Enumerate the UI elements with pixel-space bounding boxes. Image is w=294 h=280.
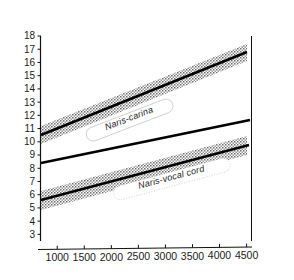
x-tick-label: 1500 [73, 251, 97, 263]
y-tick-label: 17 [24, 44, 36, 55]
y-tick-label: 6 [29, 189, 35, 200]
x-tick-label: 2500 [127, 250, 151, 262]
y-tick-label: 11 [25, 123, 36, 134]
x-tick-label: 4000 [208, 249, 232, 261]
y-tick-label: 15 [24, 70, 36, 81]
y-tick-label: 13 [24, 97, 36, 108]
y-tick-label: 10 [24, 136, 36, 147]
y-tick-label: 7 [29, 176, 35, 187]
y-tick-label: 16 [24, 57, 36, 68]
x-tick-label: 3000 [154, 250, 178, 262]
y-tick-label: 4 [29, 216, 35, 227]
y-tick-label: 12 [24, 110, 36, 121]
y-tick-label: 8 [29, 163, 35, 174]
x-tick-label: 3500 [181, 250, 205, 262]
chart-canvas: Naris-carina Naris-vocal cord 3456789101… [0, 0, 294, 280]
y-tick-label: 3 [29, 229, 35, 240]
x-tick-label: 1000 [46, 251, 70, 263]
x-tick-label: 2000 [100, 251, 124, 263]
y-tick-label: 14 [24, 83, 36, 94]
x-tick-label: 4500 [235, 249, 259, 261]
y-tick-label: 9 [29, 149, 35, 160]
y-tick-label: 5 [29, 202, 35, 213]
y-tick-label: 18 [24, 30, 36, 41]
